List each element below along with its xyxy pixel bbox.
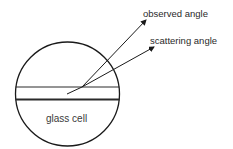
scattering-angle-label: scattering angle [150, 35, 217, 46]
glass-cell-label: glass cell [46, 113, 87, 124]
observed-angle-label: observed angle [143, 8, 208, 19]
scattering-diagram: observed angle scattering angle glass ce… [0, 0, 233, 149]
observed-angle-arrow [82, 20, 146, 87]
incident-beam-line [67, 87, 82, 94]
